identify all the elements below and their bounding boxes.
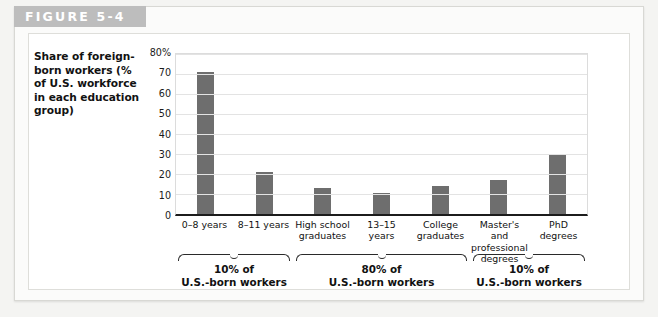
group-share-percent: 10% of (178, 263, 290, 276)
y-axis-tick-label: 30 (159, 150, 171, 160)
bracket-arm-right (386, 254, 468, 261)
group-bracket (296, 252, 467, 261)
gridline (176, 174, 587, 175)
figure-number-label: FIGURE 5-4 (14, 9, 126, 24)
gridline (176, 114, 587, 115)
bracket-arm-left (296, 254, 378, 261)
y-axis-tick-label: 80% (150, 48, 171, 58)
bracket-arm-left (473, 254, 525, 261)
figure-page: FIGURE 5-4 Share of foreign-born workers… (0, 0, 658, 317)
bar (256, 172, 273, 214)
y-axis-tick-label: 0 (165, 211, 171, 221)
gridline (176, 74, 587, 75)
group-share-percent: 10% of (473, 263, 585, 276)
plot-box (175, 53, 588, 216)
gridline (176, 154, 587, 155)
bar (490, 180, 507, 214)
bracket-notch (230, 252, 238, 259)
group-share-who: U.S.-born workers (296, 276, 467, 289)
y-axis-tick-label: 50 (159, 109, 171, 119)
gridline (176, 94, 587, 95)
bracket-notch (378, 252, 386, 259)
bar (373, 193, 390, 214)
group-bracket (473, 252, 585, 261)
y-axis-tick-label: 40 (159, 130, 171, 140)
bracket-arm-right (533, 254, 585, 261)
bracket-arm-right (238, 254, 290, 261)
gridline (176, 194, 587, 195)
group-share-who: U.S.-born workers (473, 276, 585, 289)
group-bracket-label: 80% ofU.S.-born workers (296, 263, 467, 289)
bar (549, 154, 566, 214)
y-axis-tick-label: 10 (159, 191, 171, 201)
group-bracket (178, 252, 290, 261)
y-axis-tick-label: 60 (159, 89, 171, 99)
chart-plot-area: 01020304050607080% (148, 53, 588, 216)
group-share-who: U.S.-born workers (178, 276, 290, 289)
y-axis: 01020304050607080% (148, 53, 174, 216)
y-axis-tick-label: 20 (159, 170, 171, 180)
y-axis-tick-label: 70 (159, 69, 171, 79)
gridline (176, 54, 587, 55)
group-share-percent: 80% of (296, 263, 467, 276)
group-bracket-label: 10% ofU.S.-born workers (178, 263, 290, 289)
gridline (176, 134, 587, 135)
bar (314, 188, 331, 214)
bracket-notch (525, 252, 533, 259)
group-bracket-label: 10% ofU.S.-born workers (473, 263, 585, 289)
bracket-arm-left (178, 254, 230, 261)
y-axis-title: Share of foreign-born workers (% of U.S.… (34, 50, 146, 118)
bar (432, 186, 449, 214)
figure-header-band: FIGURE 5-4 (14, 6, 146, 27)
